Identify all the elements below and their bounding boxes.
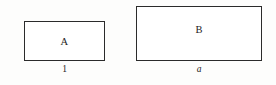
figure-canvas: A 1 B a: [0, 0, 276, 85]
rectangle-a-dimension-label: 1: [24, 64, 105, 74]
rectangle-a-inner-label: A: [24, 36, 105, 47]
rectangle-b-dimension-label: a: [136, 64, 262, 74]
rectangle-b-inner-label: B: [136, 24, 262, 35]
